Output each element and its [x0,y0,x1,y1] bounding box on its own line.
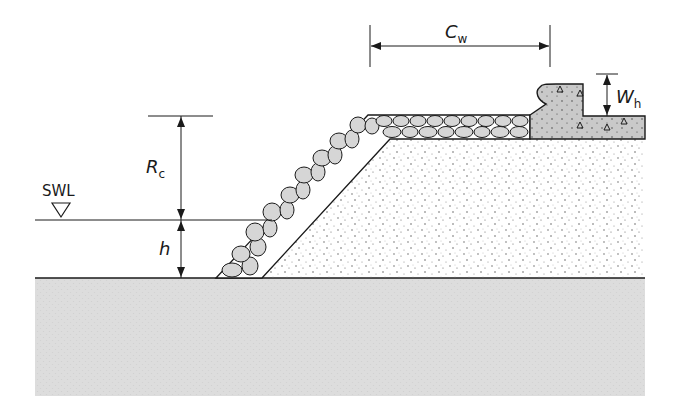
arrow-up-icon [603,75,611,85]
water-level-triangle-icon [52,203,70,217]
swl-label: SWL [42,182,75,200]
arrow-up-icon [177,117,185,127]
wh-label: Wh [616,86,641,111]
h-label: h [159,238,170,259]
cw-dimension: Cw [370,21,550,67]
seabed [35,278,645,396]
arrow-down-icon [177,209,185,219]
rc-dimension: Rc [146,116,213,220]
h-dimension: h [159,220,185,278]
arrow-right-icon [539,42,549,50]
arrow-up-icon [177,221,185,231]
arrow-down-icon [177,267,185,277]
cw-label: Cw [445,21,468,46]
rc-label: Rc [146,156,165,181]
arrow-left-icon [371,42,381,50]
still-water-level: SWL [35,182,272,220]
arrow-down-icon [603,105,611,115]
breakwater-diagram: SWL Rc h Cw Wh [0,0,678,415]
wh-dimension: Wh [596,74,641,116]
